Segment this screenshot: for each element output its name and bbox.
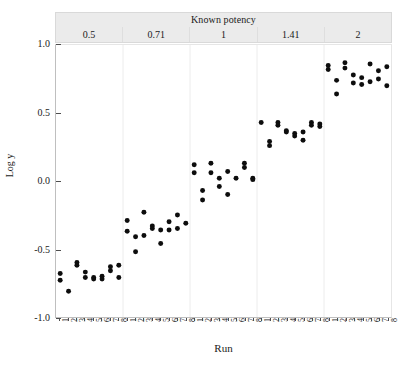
y-tick-label: -0.5 [10, 245, 50, 255]
x-tick-mark [127, 318, 128, 321]
y-tick-label: 0.5 [10, 108, 50, 118]
x-tick-mark [287, 318, 288, 321]
y-tick-label: -1.0 [10, 313, 50, 323]
panel-label-3: 1.41 [258, 27, 325, 42]
x-tick-mark [388, 318, 389, 321]
x-tick-mark [329, 318, 330, 321]
x-tick-mark [295, 318, 296, 321]
x-axis: 1234567812345678123456781234567812345678 [55, 318, 392, 342]
y-tick-label: 0.0 [10, 176, 50, 186]
panel-label-2: 1 [190, 27, 257, 42]
x-tick-mark [152, 318, 153, 321]
x-tick-mark [371, 318, 372, 321]
x-axis-label: Run [55, 342, 392, 354]
x-tick-mark [194, 318, 195, 321]
x-tick-label: 7 [180, 318, 188, 322]
scatter-plot-figure: Known potency 0.5 0.71 1 1.41 2 1.00.50.… [0, 0, 415, 367]
strip-header-known-potency: Known potency [55, 12, 392, 27]
x-tick-mark [135, 318, 136, 321]
y-tick-mark [56, 44, 61, 45]
x-tick-label: 5 [298, 318, 306, 322]
x-tick-mark [169, 318, 170, 321]
x-tick-mark [93, 318, 94, 321]
y-axis-label: Log y [4, 136, 15, 196]
x-tick-mark [363, 318, 364, 321]
x-tick-mark [245, 318, 246, 321]
x-tick-mark [346, 318, 347, 321]
x-tick-mark [110, 318, 111, 321]
y-tick-mark [56, 113, 61, 114]
x-tick-mark [177, 318, 178, 321]
y-tick-label: 1.0 [10, 39, 50, 49]
strip-title-label: Known potency [191, 15, 256, 25]
panel-label-1: 0.71 [123, 27, 190, 42]
x-tick-label: 8 [391, 318, 399, 322]
panel-label-4: 2 [325, 27, 391, 42]
x-tick-label: 4 [357, 318, 365, 322]
x-tick-mark [270, 318, 271, 321]
x-tick-mark [186, 318, 187, 321]
x-tick-mark [228, 318, 229, 321]
y-tick-mark [56, 181, 61, 182]
data-points-canvas [56, 45, 391, 317]
x-tick-mark [354, 318, 355, 321]
x-tick-label: 8 [121, 318, 129, 322]
x-tick-label: 6 [239, 318, 247, 322]
x-tick-mark [211, 318, 212, 321]
x-tick-mark [76, 318, 77, 321]
x-tick-mark [236, 318, 237, 321]
x-tick-label: 1 [62, 318, 70, 322]
plot-area [55, 44, 392, 318]
panel-level-strip: 0.5 0.71 1 1.41 2 [55, 27, 392, 43]
x-tick-mark [304, 318, 305, 321]
y-tick-mark [56, 250, 61, 251]
x-tick-mark [68, 318, 69, 321]
x-tick-mark [253, 318, 254, 321]
panel-label-0: 0.5 [56, 27, 123, 42]
x-tick-mark [312, 318, 313, 321]
